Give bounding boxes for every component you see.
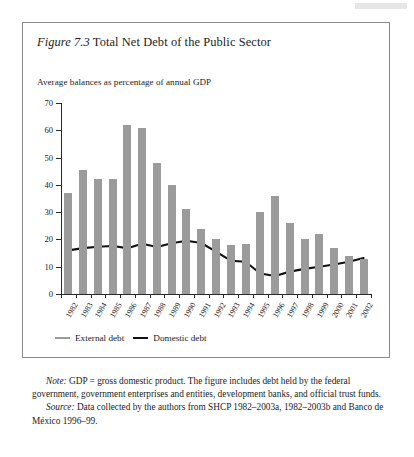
bar-external-debt [301,239,309,294]
x-axis-tick [179,294,180,298]
x-axis-tick [76,294,77,298]
note-text: GDP = gross domestic product. The figure… [32,376,381,399]
x-axis-line [61,294,371,295]
chart-axes: 0102030405060701982198319841985198619871… [61,103,371,294]
legend-swatch-domestic-icon [133,337,148,339]
y-axis-tick-label: 10 [44,262,53,272]
x-axis-tick [120,294,121,298]
figure-page: Figure 7.3 Total Net Debt of the Public … [0,0,414,457]
bar-external-debt [315,234,323,294]
x-axis-tick-label: 1991 [197,301,213,319]
y-axis-tick: 70 [56,103,61,104]
chart-subtitle: Average balances as percentage of annual… [37,77,211,87]
source-label: Source: [46,402,75,412]
figure-title-text: Total Net Debt of the Public Sector [93,35,271,49]
y-axis-tick-label: 70 [44,98,53,108]
x-axis-tick [282,294,283,298]
note-label: Note: [46,376,67,386]
x-axis-tick-label: 1997 [285,301,301,319]
x-axis-tick-label: 1984 [93,301,109,319]
x-axis-tick [253,294,254,298]
y-axis-tick: 40 [56,185,61,186]
x-axis-tick [105,294,106,298]
x-axis-tick-label: 1988 [152,301,168,319]
y-axis-tick-label: 60 [44,125,53,135]
legend-label-external: External debt [75,333,124,343]
legend-item-external: External debt [55,333,124,343]
y-axis-tick: 20 [56,239,61,240]
bar-external-debt [197,229,205,294]
x-axis-tick-label: 2001 [344,301,360,319]
x-axis-tick [238,294,239,298]
bar-external-debt [242,244,250,294]
bar-external-debt [256,212,264,294]
x-axis-tick-label: 1987 [138,301,154,319]
bar-external-debt [94,179,102,294]
bar-external-debt [212,239,220,294]
y-axis-tick: 10 [56,267,61,268]
y-axis-tick: 60 [56,130,61,131]
bar-external-debt [109,179,117,294]
x-axis-tick-label: 1986 [123,301,139,319]
bar-external-debt [168,185,176,294]
bar-external-debt [153,163,161,294]
x-axis-tick [268,294,269,298]
x-axis-tick-label: 1996 [271,301,287,319]
x-axis-tick-label: 1994 [241,301,257,319]
x-axis-tick-label: 2002 [359,301,375,319]
bar-external-debt [330,248,338,294]
x-axis-tick-label: 2000 [330,301,346,319]
legend-item-domestic: Domestic debt [133,333,206,343]
x-axis-tick-label: 1982 [64,301,80,319]
x-axis-tick [341,294,342,298]
chart-legend: External debt Domestic debt [55,333,207,343]
x-axis-tick [312,294,313,298]
x-axis-tick-label: 1985 [108,301,124,319]
x-axis-tick-label: 1995 [256,301,272,319]
x-axis-tick-label: 1993 [226,301,242,319]
bar-external-debt [360,259,368,294]
x-axis-tick [223,294,224,298]
page-edge-artifact [355,3,407,9]
chart-plot-area: 0102030405060701982198319841985198619871… [37,97,377,299]
bar-external-debt [286,223,294,294]
x-axis-tick-label: 1998 [300,301,316,319]
bar-external-debt [64,193,72,294]
x-axis-tick [194,294,195,298]
x-axis-tick [356,294,357,298]
x-axis-tick-label: 1989 [167,301,183,319]
bar-external-debt [79,170,87,294]
source-paragraph: Source: Data collected by the authors fr… [32,401,384,427]
y-axis-tick: 50 [56,158,61,159]
x-axis-tick-label: 1983 [79,301,95,319]
x-axis-tick [91,294,92,298]
x-axis-tick [327,294,328,298]
bar-external-debt [123,125,131,294]
y-axis-tick-label: 50 [44,153,53,163]
y-axis-tick: 30 [56,212,61,213]
x-axis-tick [209,294,210,298]
bar-external-debt [182,209,190,294]
legend-swatch-external-icon [55,337,70,339]
y-axis-tick-label: 40 [44,180,53,190]
legend-label-domestic: Domestic debt [153,333,206,343]
x-axis-tick-label: 1990 [182,301,198,319]
x-axis-tick-label: 1992 [212,301,228,319]
x-axis-tick [135,294,136,298]
bar-external-debt [345,256,353,294]
y-axis-tick-label: 30 [44,207,53,217]
x-axis-tick [164,294,165,298]
bar-external-debt [227,245,235,294]
x-axis-tick [297,294,298,298]
bar-external-debt [271,196,279,294]
source-text: Data collected by the authors from SHCP … [32,402,383,425]
figure-container: Figure 7.3 Total Net Debt of the Public … [22,22,390,358]
x-axis-tick [61,294,62,298]
bar-external-debt [138,128,146,294]
y-axis-tick-label: 0 [49,289,53,299]
x-axis-tick [150,294,151,298]
figure-notes: Note: GDP = gross domestic product. The … [32,375,384,428]
note-paragraph: Note: GDP = gross domestic product. The … [32,375,384,401]
figure-number: Figure 7.3 [37,35,90,49]
x-axis-tick [371,294,372,298]
